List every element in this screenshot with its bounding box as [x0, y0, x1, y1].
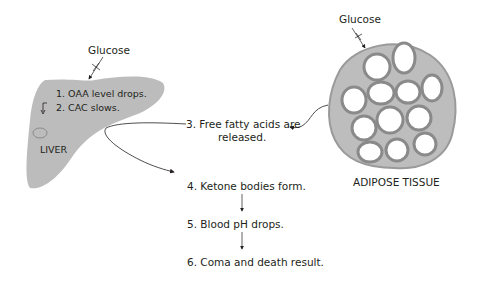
step-3-label-line1: 3. Free fatty acids are: [186, 118, 300, 130]
step-5-label: 5. Blood pH drops.: [187, 218, 284, 230]
liver-label: LIVER: [40, 144, 67, 156]
adipose-tissue-label: ADIPOSE TISSUE: [353, 176, 440, 188]
adipose-glucose-blocked-arrow-icon: [352, 28, 365, 48]
liver-glucose-blocked-arrow-icon: [89, 57, 103, 79]
step-2-label: 2. CAC slows.: [56, 102, 120, 114]
step-6-label: 6. Coma and death result.: [187, 256, 324, 268]
adipose-glucose-label: Glucose: [339, 13, 381, 25]
liver-to-ketone-arrow: [105, 123, 186, 172]
adipose-tissue-illustration: [329, 43, 456, 168]
step-1-label: 1. OAA level drops.: [56, 88, 147, 100]
step-3-label-line2: released.: [218, 131, 266, 143]
liver-glucose-label: Glucose: [88, 44, 130, 56]
step-4-label: 4. Ketone bodies form.: [187, 180, 306, 192]
diagram-graphics: [0, 0, 483, 289]
